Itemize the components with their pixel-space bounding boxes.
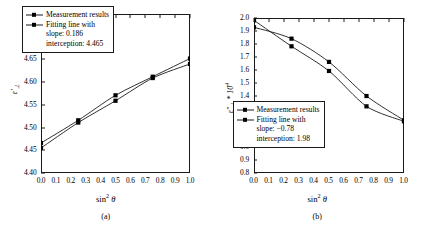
legend-a: Measurement results Fitting line with sl… — [22, 6, 114, 53]
y-tick-mark — [254, 160, 258, 161]
figure-two-panel-plots: 4.404.454.504.554.604.654.704.75 0.00.10… — [0, 0, 423, 233]
legend-label-measurement-a: Measurement results — [46, 10, 109, 20]
data-point-marker — [188, 62, 190, 66]
x-tick-label: 1.0 — [399, 173, 408, 184]
legend-slope-b: slope: −0.78 — [237, 124, 320, 134]
x-tick-mark — [358, 18, 359, 22]
panel-caption-a: (a) — [0, 212, 212, 221]
data-point-marker — [188, 56, 190, 60]
x-tick-label: 0.1 — [52, 173, 61, 184]
x-tick-label: 0.6 — [339, 173, 348, 184]
x-axis-label-a: sin2 θ — [0, 192, 212, 204]
plot-curves-b — [254, 18, 404, 173]
x-tick-mark — [298, 18, 299, 22]
y-tick-label: 1.6 — [240, 66, 253, 73]
x-tick-mark — [328, 18, 329, 22]
data-point-marker — [364, 94, 368, 98]
y-tick-label: 1.5 — [240, 79, 253, 86]
y-tick-mark — [41, 127, 45, 128]
x-tick-mark — [343, 18, 344, 22]
y-tick-mark — [254, 30, 258, 31]
x-tick-mark — [268, 18, 269, 22]
legend-interception-b: interception: 1.98 — [237, 134, 320, 144]
legend-entry-fitting-a: Fitting line with — [26, 20, 109, 30]
x-tick-mark — [373, 18, 374, 22]
data-point-marker — [151, 76, 155, 80]
y-tick-label: 4.55 — [24, 101, 41, 108]
x-tick-label: 0.5 — [324, 173, 333, 184]
data-point-marker — [401, 119, 403, 123]
y-tick-label: 1.7 — [240, 53, 253, 60]
legend-entry-measurement-b: Measurement results — [237, 105, 320, 115]
y-tick-label: 4.45 — [24, 147, 41, 154]
plot-area-b: 0.80.91.01.11.21.31.41.51.61.71.81.92.0 … — [254, 18, 404, 173]
y-tick-mark — [41, 150, 45, 151]
data-point-marker — [113, 99, 117, 103]
y-tick-label: 4.65 — [24, 56, 41, 63]
x-tick-mark — [130, 14, 131, 18]
legend-slope-a: slope: 0.186 — [26, 29, 109, 39]
x-tick-mark — [160, 14, 161, 18]
y-tick-mark — [254, 43, 258, 44]
x-tick-label: 0.0 — [37, 173, 46, 184]
x-tick-mark — [115, 14, 116, 18]
legend-marker-square-icon — [237, 116, 254, 123]
y-tick-label: 1.4 — [240, 92, 253, 99]
data-point-marker — [326, 69, 330, 73]
x-tick-label: 0.3 — [294, 173, 303, 184]
y-tick-mark — [41, 104, 45, 105]
legend-b: Measurement results Fitting line with sl… — [233, 101, 325, 148]
y-tick-label: 1.9 — [240, 27, 253, 34]
y-tick-mark — [41, 82, 45, 83]
x-tick-label: 0.9 — [384, 173, 393, 184]
x-tick-label: 0.8 — [156, 173, 165, 184]
legend-marker-square-icon — [26, 11, 43, 18]
legend-label-fitting-b: Fitting line with — [257, 115, 306, 125]
data-point-marker — [41, 141, 43, 145]
x-tick-mark — [145, 14, 146, 18]
series-line-2 — [41, 64, 190, 148]
x-tick-label: 0.2 — [279, 173, 288, 184]
legend-marker-square-icon — [237, 106, 254, 113]
data-point-marker — [326, 60, 330, 64]
x-tick-label: 0.6 — [126, 173, 135, 184]
x-tick-label: 0.0 — [249, 173, 258, 184]
y-tick-label: 0.9 — [240, 156, 253, 163]
panel-b: 0.80.91.01.11.21.31.41.51.61.71.81.92.0 … — [212, 0, 423, 233]
legend-entry-fitting-b: Fitting line with — [237, 115, 320, 125]
x-axis-label-b: sin2 θ — [212, 192, 423, 204]
data-point-marker — [76, 120, 80, 124]
x-tick-mark — [403, 18, 404, 22]
x-tick-mark — [388, 18, 389, 22]
y-tick-mark — [254, 56, 258, 57]
x-tick-label: 0.5 — [111, 173, 120, 184]
x-tick-mark — [190, 14, 191, 18]
x-tick-label: 0.4 — [96, 173, 105, 184]
y-axis-label-a: ε′⊥ — [10, 69, 21, 109]
x-tick-label: 0.7 — [141, 173, 150, 184]
x-tick-mark — [283, 18, 284, 22]
x-tick-label: 0.3 — [81, 173, 90, 184]
y-tick-label: 4.60 — [24, 78, 41, 85]
data-point-marker — [254, 25, 256, 29]
y-tick-label: 4.50 — [24, 124, 41, 131]
panel-caption-b: (b) — [212, 212, 423, 221]
legend-marker-square-icon — [26, 21, 43, 28]
y-tick-mark — [41, 59, 45, 60]
y-tick-label: 1.8 — [240, 40, 253, 47]
y-tick-label: 2.0 — [240, 14, 253, 21]
x-tick-label: 0.1 — [264, 173, 273, 184]
y-tick-mark — [254, 95, 258, 96]
x-tick-mark — [313, 18, 314, 22]
x-tick-label: 0.2 — [66, 173, 75, 184]
x-tick-label: 1.0 — [186, 173, 195, 184]
x-tick-label: 0.8 — [369, 173, 378, 184]
data-point-marker — [113, 93, 117, 97]
x-tick-label: 0.9 — [171, 173, 180, 184]
legend-entry-measurement-a: Measurement results — [26, 10, 109, 20]
data-point-marker — [364, 104, 368, 108]
x-tick-mark — [253, 18, 254, 22]
y-tick-mark — [254, 69, 258, 70]
x-tick-mark — [175, 14, 176, 18]
x-tick-label: 0.7 — [354, 173, 363, 184]
